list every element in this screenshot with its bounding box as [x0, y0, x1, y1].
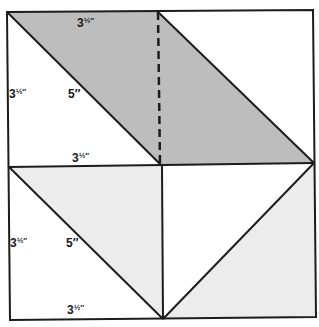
label-bottom-edge: 3½″	[67, 303, 84, 317]
label-lower-diagonal: 5″	[66, 236, 79, 250]
lower-vertical-line	[162, 166, 163, 319]
label-middle-edge: 3½″	[72, 151, 89, 165]
label-lower-left-side: 3½″	[10, 236, 27, 250]
label-upper-left-side: 3½″	[9, 87, 26, 101]
label-upper-diagonal: 5″	[68, 87, 81, 101]
quilt-diagram: 3½″ 3½″ 5″ 3½″ 3½″ 5″ 3½″	[0, 0, 319, 327]
